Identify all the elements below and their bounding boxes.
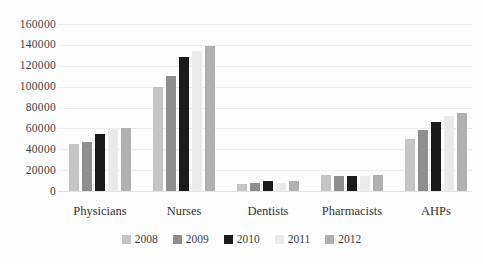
bar-group-pharmacists [310, 24, 394, 191]
bar-2011-nurses [192, 51, 202, 191]
legend-label: 2011 [288, 233, 311, 245]
legend-label: 2008 [135, 233, 158, 245]
bar-2009-physicians [82, 142, 92, 191]
x-category-label-physicians: Physicians [58, 204, 142, 219]
x-category-label-dentists: Dentists [226, 204, 310, 219]
bar-group-physicians [58, 24, 142, 191]
x-axis-baseline [58, 191, 472, 192]
bar-2009-nurses [166, 76, 176, 191]
y-tick-label-120000: 120000 [4, 60, 56, 71]
bar-2012-dentists [289, 181, 299, 191]
bar-group-nurses [142, 24, 226, 191]
bar-2008-dentists [237, 184, 247, 191]
legend-item-2011: 2011 [275, 233, 311, 245]
bar-group-ahps [394, 24, 478, 191]
bar-2010-pharmacists [347, 176, 357, 191]
legend-swatch-icon [173, 235, 182, 244]
x-category-label-nurses: Nurses [142, 204, 226, 219]
legend-swatch-icon [224, 235, 233, 244]
y-tick-label-40000: 40000 [4, 144, 56, 155]
x-category-label-pharmacists: Pharmacists [310, 204, 394, 219]
bar-2009-pharmacists [334, 176, 344, 191]
bar-2010-ahps [431, 122, 441, 191]
legend-item-2010: 2010 [224, 233, 260, 245]
grouped-bar-chart: 0200004000060000800001000001200001400001… [0, 0, 483, 264]
y-tick-label-80000: 80000 [4, 102, 56, 113]
bar-2009-dentists [250, 183, 260, 191]
legend-swatch-icon [275, 235, 284, 244]
bar-2011-ahps [444, 116, 454, 191]
legend-item-2012: 2012 [325, 233, 361, 245]
bar-2008-nurses [153, 87, 163, 191]
bar-2010-dentists [263, 181, 273, 191]
bar-2011-pharmacists [360, 176, 370, 191]
y-tick-label-160000: 160000 [4, 19, 56, 30]
y-tick-label-60000: 60000 [4, 123, 56, 134]
legend-label: 2009 [186, 233, 209, 245]
bar-2008-ahps [405, 139, 415, 191]
bar-2012-ahps [457, 113, 467, 191]
bar-2010-nurses [179, 57, 189, 191]
bar-2008-pharmacists [321, 175, 331, 191]
legend: 20082009201020112012 [0, 233, 483, 245]
bar-2012-pharmacists [373, 175, 383, 191]
bar-2012-nurses [205, 46, 215, 191]
bar-2009-ahps [418, 130, 428, 191]
bar-group-dentists [226, 24, 310, 191]
y-tick-label-20000: 20000 [4, 165, 56, 176]
x-category-label-ahps: AHPs [394, 204, 478, 219]
y-tick-label-140000: 140000 [4, 39, 56, 50]
legend-label: 2010 [237, 233, 260, 245]
legend-swatch-icon [122, 235, 131, 244]
legend-swatch-icon [325, 235, 334, 244]
legend-item-2009: 2009 [173, 233, 209, 245]
bar-2010-physicians [95, 134, 105, 191]
y-tick-label-0: 0 [4, 186, 56, 197]
legend-label: 2012 [338, 233, 361, 245]
bar-2011-dentists [276, 183, 286, 191]
y-tick-label-100000: 100000 [4, 81, 56, 92]
bar-2008-physicians [69, 144, 79, 191]
bar-2012-physicians [121, 128, 131, 191]
bar-2011-physicians [108, 129, 118, 191]
legend-item-2008: 2008 [122, 233, 158, 245]
